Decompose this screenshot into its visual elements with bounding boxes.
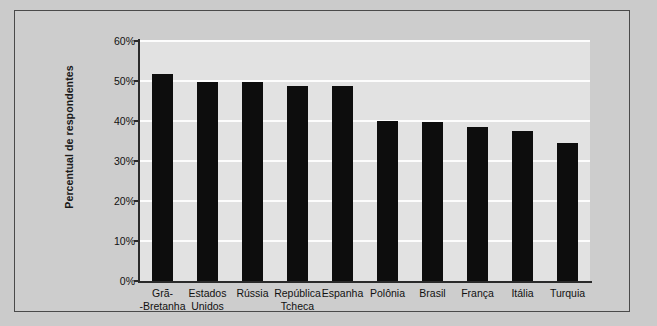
- y-axis-tick-label: 10%: [91, 235, 135, 247]
- bar: [512, 131, 533, 281]
- y-axis-tick-mark: [134, 240, 139, 242]
- y-axis-tick-label: 20%: [91, 195, 135, 207]
- y-axis-tick-mark: [134, 80, 139, 82]
- y-axis-tick-label: 50%: [91, 75, 135, 87]
- y-axis-tick-mark: [134, 160, 139, 162]
- y-axis-label: Percentual de respondentes: [63, 37, 75, 237]
- bar: [557, 143, 578, 281]
- figure: Percentual de respondentes 60%50%40%30%2…: [0, 0, 657, 326]
- x-axis-tick-label: Turquia: [536, 287, 599, 300]
- y-axis-tick-label: 30%: [91, 155, 135, 167]
- bar: [422, 122, 443, 281]
- bar: [197, 82, 218, 281]
- x-axis-tick-labels: Grã--BretanhaEstadosUnidosRússiaRepúblic…: [140, 287, 590, 321]
- gridline: [140, 40, 590, 42]
- y-axis-tick-label: 60%: [91, 35, 135, 47]
- y-axis-tick-label: 0%: [91, 275, 135, 287]
- y-axis-tick-mark: [134, 120, 139, 122]
- chart-frame: Percentual de respondentes 60%50%40%30%2…: [14, 10, 630, 312]
- bar: [242, 82, 263, 281]
- bar: [152, 74, 173, 281]
- bar: [377, 121, 398, 281]
- bar: [332, 86, 353, 281]
- x-axis-line: [138, 281, 592, 283]
- y-axis-tick-label: 40%: [91, 115, 135, 127]
- y-axis-tick-mark: [134, 40, 139, 42]
- y-axis-tick-labels: 60%50%40%30%20%10%0%: [85, 41, 135, 281]
- plot-area: [140, 41, 590, 281]
- bar: [287, 86, 308, 281]
- bar: [467, 127, 488, 281]
- y-axis-tick-mark: [134, 200, 139, 202]
- y-axis-tick-mark: [134, 280, 139, 282]
